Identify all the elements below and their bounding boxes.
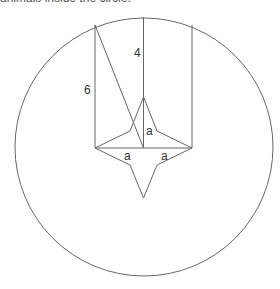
label-6: 6 [84,83,91,97]
geometry-diagram: 6 4 a a a [0,0,280,289]
diagonal-line [95,25,144,148]
label-a-right: a [161,149,168,163]
label-a-vertical: a [146,124,153,138]
label-4: 4 [134,46,141,60]
label-a-left: a [124,149,131,163]
